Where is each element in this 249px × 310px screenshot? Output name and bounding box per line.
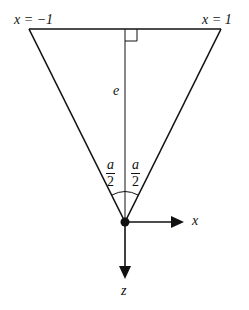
z-axis-arrowhead [119, 266, 131, 279]
x-axis-label: x [192, 214, 198, 228]
origin-point [121, 218, 130, 227]
left-corner-label: x = −1 [14, 13, 53, 27]
half-angle-left: a 2 [106, 158, 115, 189]
z-axis-label: z [121, 284, 126, 298]
half-angle-right: a 2 [131, 158, 140, 189]
right-corner-label: x = 1 [202, 13, 232, 27]
diagram-canvas [0, 0, 249, 310]
half-angle-left-denominator: 2 [107, 174, 114, 189]
right-angle-marker [125, 29, 137, 41]
half-angle-right-numerator: a [131, 158, 140, 174]
half-angle-right-denominator: 2 [132, 174, 139, 189]
height-label-e: e [113, 84, 119, 98]
half-angle-left-numerator: a [106, 158, 115, 174]
left-edge [29, 29, 125, 222]
right-edge [125, 29, 221, 222]
x-axis-arrowhead [171, 216, 184, 228]
